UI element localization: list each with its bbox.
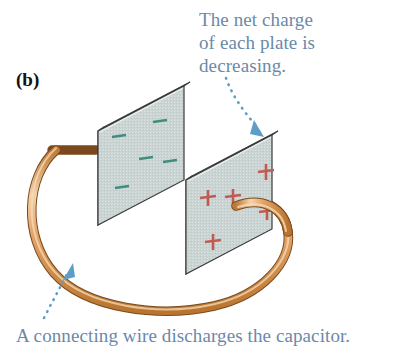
discharge-wire-callout-text: A connecting wire discharges the capacit… — [16, 325, 350, 347]
top-callout-leader-icon — [226, 78, 264, 137]
net-charge-callout-text: The net charge of each plate is decreasi… — [199, 8, 315, 77]
capacitor-discharging-figure: (b) The net charge of each plate is decr… — [0, 0, 394, 359]
negative-plate — [98, 82, 190, 225]
panel-label: (b) — [16, 69, 39, 91]
diagram-canvas — [0, 0, 394, 359]
